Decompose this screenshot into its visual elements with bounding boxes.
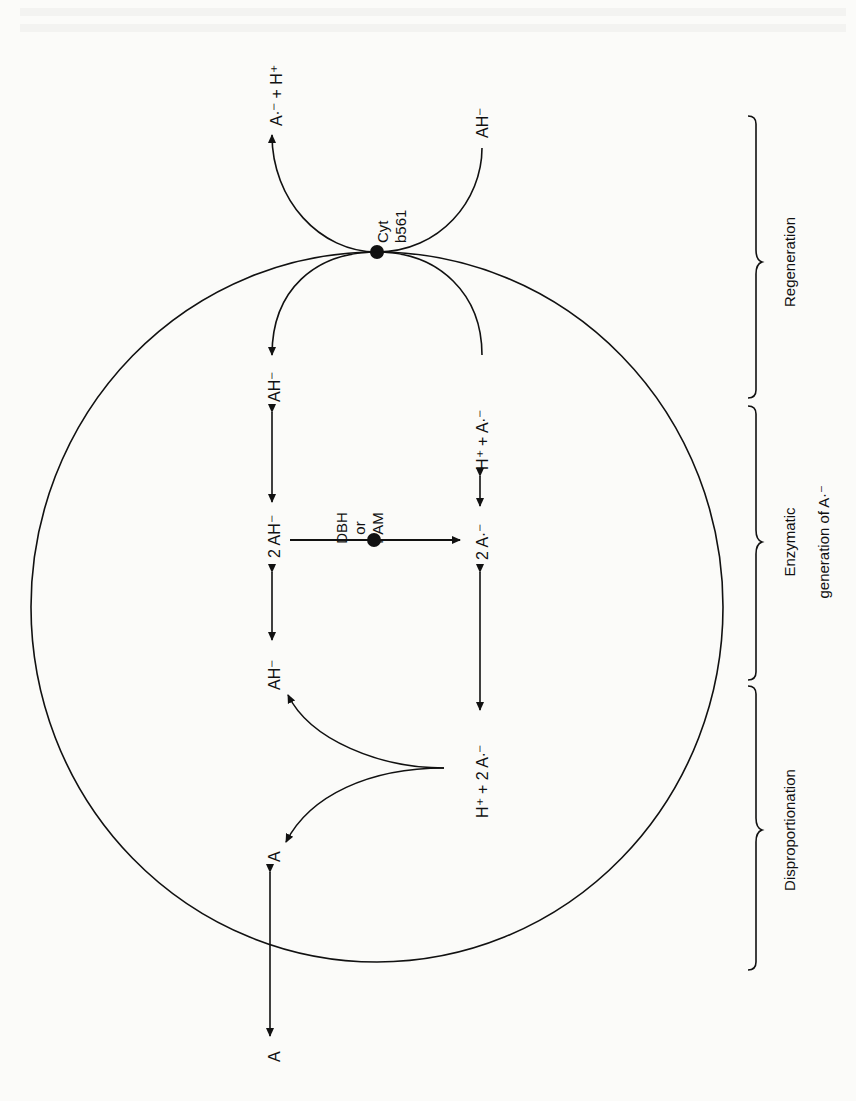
two-a-radical-label: 2 A∙⁻ bbox=[474, 524, 491, 560]
regeneration-arc-out bbox=[272, 135, 377, 252]
disproportionation-label: Disproportionation bbox=[781, 769, 798, 891]
generation-of-a-label: generation of A∙⁻ bbox=[815, 485, 832, 598]
a-outside-label: A bbox=[266, 1051, 283, 1062]
regeneration-label: Regeneration bbox=[781, 217, 798, 307]
ah-top-label: AH⁻ bbox=[266, 372, 283, 402]
ah-mid-label: AH⁻ bbox=[266, 660, 283, 690]
outside-ah-label: AH⁻ bbox=[474, 108, 491, 138]
pam-label: PAM bbox=[369, 512, 386, 543]
two-ah-label: 2 AH⁻ bbox=[266, 515, 283, 558]
or-label: or bbox=[351, 521, 368, 534]
bracket-disproportionation bbox=[748, 686, 762, 970]
inside-arc-from-a bbox=[377, 252, 482, 355]
outside-product-label: A∙⁻ + H⁺ bbox=[268, 65, 285, 126]
enzymatic-label: Enzymatic bbox=[781, 507, 798, 577]
bracket-enzymatic bbox=[748, 406, 762, 680]
h-plus-a-top-label: H⁺ + A∙⁻ bbox=[474, 410, 491, 470]
electron-transfer-diagram: Cyt b561 A∙⁻ + H⁺ AH⁻ AH⁻ 2 AH⁻ AH⁻ DBH … bbox=[0, 0, 856, 1101]
disproportionation-arc-ah bbox=[288, 695, 444, 768]
disproportionation-arc-a bbox=[286, 768, 444, 842]
inside-arc-to-ah bbox=[272, 252, 377, 355]
cyt-label: Cyt bbox=[374, 220, 391, 243]
h-plus-2a-radical-label: H⁺ + 2 A∙⁻ bbox=[474, 745, 491, 818]
vesicle-membrane-circle bbox=[31, 252, 723, 962]
b561-label: b561 bbox=[392, 210, 409, 243]
dbh-label: DBH bbox=[333, 512, 350, 544]
a-inside-label: A bbox=[266, 851, 283, 862]
bracket-regeneration bbox=[748, 116, 762, 398]
